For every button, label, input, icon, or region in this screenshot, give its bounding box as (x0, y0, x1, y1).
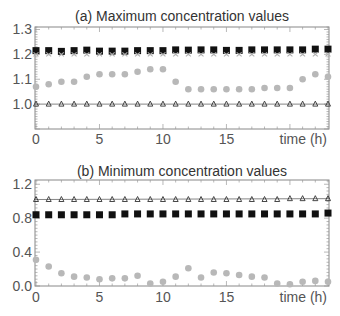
x-tick-label: 5 (96, 131, 104, 147)
circle-marker (109, 71, 116, 78)
square-marker (172, 210, 179, 217)
square-marker (71, 211, 78, 218)
y-tick-label: 1.0 (13, 96, 33, 112)
circle-marker (299, 76, 306, 83)
triangle-marker (173, 101, 178, 106)
square-marker (96, 48, 103, 55)
series-square (33, 210, 332, 219)
triangle-marker (313, 101, 318, 106)
square-marker (325, 46, 332, 53)
square-marker (121, 210, 128, 217)
triangle-marker (59, 197, 64, 202)
circle-marker (261, 274, 268, 281)
y-tick-label: 1.3 (13, 21, 33, 37)
circle-marker (198, 274, 205, 281)
triangle-marker (46, 197, 51, 202)
triangle-marker (186, 101, 191, 106)
triangle-marker (275, 101, 280, 106)
triangle-marker (97, 101, 102, 106)
triangle-marker (326, 101, 331, 106)
x-axis-label: time (h) (280, 289, 327, 305)
circle-marker (287, 281, 294, 288)
circle-marker (172, 78, 179, 85)
cross-marker (313, 52, 318, 56)
series-square (33, 46, 332, 55)
plot-frame (35, 180, 329, 286)
circle-marker (109, 275, 116, 282)
circle-marker (122, 71, 129, 78)
circle-marker (71, 78, 78, 85)
square-marker (325, 210, 332, 217)
x-axis-label: time (h) (280, 131, 327, 147)
circle-marker (274, 280, 281, 287)
circle-marker (185, 86, 192, 93)
chart-title: (a) Maximum concentration values (75, 8, 289, 24)
chart-a-maximum: (a) Maximum concentration values1.01.11.… (13, 8, 332, 147)
circle-marker (147, 66, 154, 73)
circle-marker (312, 278, 319, 285)
circle-marker (312, 71, 319, 78)
triangle-marker (287, 196, 292, 201)
triangle-marker (300, 196, 305, 201)
triangle-marker (237, 101, 242, 106)
circle-marker (96, 71, 103, 78)
triangle-marker (211, 101, 216, 106)
circle-marker (325, 73, 332, 80)
x-tick-label: 10 (155, 289, 171, 305)
y-tick-label: 0.8 (13, 210, 33, 226)
circle-marker (134, 273, 141, 280)
triangle-marker (34, 101, 39, 106)
circle-marker (45, 263, 52, 270)
square-marker (109, 211, 116, 218)
y-tick-label: 1.2 (13, 176, 33, 192)
circle-marker (236, 272, 243, 279)
circle-marker (172, 273, 179, 280)
circle-marker (96, 276, 103, 283)
series-triangle (34, 101, 331, 106)
chart-figure: (a) Maximum concentration values1.01.11.… (0, 0, 340, 316)
square-marker (236, 210, 243, 217)
square-marker (83, 211, 90, 218)
triangle-marker (84, 101, 89, 106)
series-circle (33, 256, 332, 287)
square-marker (121, 48, 128, 55)
square-marker (286, 210, 293, 217)
circle-marker (249, 273, 256, 280)
y-tick-label: 1.2 (13, 46, 33, 62)
circle-marker (261, 85, 268, 92)
triangle-marker (59, 101, 64, 106)
square-marker (274, 210, 281, 217)
x-tick-label: 15 (219, 131, 235, 147)
triangle-marker (135, 101, 140, 106)
circle-marker (33, 83, 40, 90)
circle-marker (134, 68, 141, 75)
chart-title: (b) Minimum concentration values (77, 163, 287, 179)
y-tick-label: 0.4 (13, 244, 33, 260)
square-marker (96, 211, 103, 218)
circle-marker (223, 86, 230, 93)
x-tick-label: 0 (32, 289, 40, 305)
circle-marker (249, 86, 256, 93)
series-circle (33, 66, 332, 93)
square-marker (109, 48, 116, 55)
circle-marker (223, 270, 230, 277)
square-marker (210, 210, 217, 217)
series-triangle (34, 196, 331, 202)
circle-marker (210, 86, 217, 93)
square-marker (261, 210, 268, 217)
triangle-marker (110, 101, 115, 106)
circle-marker (210, 269, 217, 276)
circle-marker (274, 85, 281, 92)
circle-marker (160, 66, 167, 73)
circle-marker (45, 81, 52, 88)
x-tick-label: 0 (32, 131, 40, 147)
square-marker (159, 210, 166, 217)
circle-marker (325, 278, 332, 285)
triangle-marker (72, 101, 77, 106)
circle-marker (185, 265, 192, 272)
reference-line (35, 199, 329, 200)
square-marker (312, 210, 319, 217)
x-tick-label: 10 (155, 131, 171, 147)
plot-frame (35, 27, 329, 129)
circle-marker (33, 256, 40, 263)
